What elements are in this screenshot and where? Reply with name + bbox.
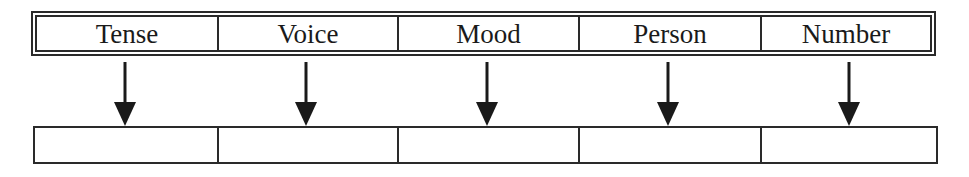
arrow-down-icon bbox=[294, 62, 318, 126]
arrow-down-icon bbox=[113, 62, 137, 126]
header-cell-person: Person bbox=[578, 17, 760, 50]
header-label: Tense bbox=[96, 21, 159, 48]
arrow-down-icon bbox=[475, 62, 499, 126]
slot-2 bbox=[217, 128, 397, 162]
category-header-row: Tense Voice Mood Person Number bbox=[35, 15, 932, 52]
slot-4 bbox=[578, 128, 760, 162]
header-label: Number bbox=[802, 21, 890, 48]
slot-3 bbox=[397, 128, 578, 162]
header-label: Mood bbox=[456, 21, 521, 48]
header-cell-voice: Voice bbox=[217, 17, 397, 50]
header-label: Voice bbox=[278, 21, 339, 48]
header-cell-tense: Tense bbox=[37, 17, 217, 50]
arrow-down-icon bbox=[656, 62, 680, 126]
header-label: Person bbox=[633, 21, 707, 48]
arrow-down-icon bbox=[837, 62, 861, 126]
header-cell-mood: Mood bbox=[397, 17, 578, 50]
slot-5 bbox=[760, 128, 936, 162]
header-cell-number: Number bbox=[760, 17, 930, 50]
empty-slot-row bbox=[33, 126, 938, 164]
slot-1 bbox=[35, 128, 217, 162]
